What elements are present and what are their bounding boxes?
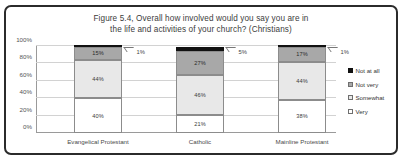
chart-title-line-1: Figure 5.4, Overall how involved would y… bbox=[46, 13, 356, 24]
callout-not-at-all: 1% bbox=[329, 47, 349, 55]
x-axis-label: Catholic bbox=[145, 138, 255, 145]
bar-value-label: 46% bbox=[194, 92, 206, 98]
legend-item-not-at-all[interactable]: Not at all bbox=[348, 67, 404, 74]
y-axis-line bbox=[36, 46, 37, 133]
bar-segment-very[interactable]: 21% bbox=[176, 115, 224, 133]
bar-segment-somewhat[interactable]: 46% bbox=[176, 75, 224, 115]
bar-value-label: 38% bbox=[296, 113, 308, 119]
bar-value-label: 27% bbox=[194, 60, 206, 66]
bar-value-label: 17% bbox=[296, 51, 308, 57]
legend-swatch-icon bbox=[348, 109, 353, 114]
bar-segment-not-at-all[interactable]: 1% bbox=[278, 45, 326, 47]
callout-leader-line bbox=[123, 47, 136, 52]
bar-segment-not-at-all[interactable]: 5% bbox=[176, 47, 224, 51]
chart-legend: Not at allNot verySomewhatVery bbox=[348, 67, 404, 121]
bar-segment-not-at-all[interactable]: 1% bbox=[74, 45, 122, 47]
legend-swatch-icon bbox=[348, 82, 353, 87]
callout-not-at-all: 5% bbox=[227, 47, 247, 55]
callout-leader-line bbox=[327, 47, 340, 52]
callout-leader-line bbox=[225, 47, 238, 52]
legend-swatch-icon bbox=[348, 95, 353, 100]
legend-item-label: Not very bbox=[356, 81, 379, 88]
callout-value-label: 1% bbox=[137, 49, 145, 55]
bar-value-label: 40% bbox=[92, 113, 104, 119]
y-tick-label-60: 60% bbox=[6, 71, 32, 78]
legend-item-label: Very bbox=[356, 108, 368, 115]
bar-segment-not-very[interactable]: 27% bbox=[176, 51, 224, 74]
bar-column[interactable]: 40%44%15%1% bbox=[74, 46, 122, 133]
y-tick-label-0: 0% bbox=[6, 123, 32, 130]
chart-title-line-2: the life and activities of your church? … bbox=[46, 24, 356, 35]
callout-value-label: 5% bbox=[239, 49, 247, 55]
bar-value-label: 15% bbox=[92, 50, 104, 56]
bar-segment-not-very[interactable]: 15% bbox=[74, 47, 122, 60]
legend-item-label: Somewhat bbox=[356, 94, 385, 101]
legend-item-very[interactable]: Very bbox=[348, 108, 404, 115]
legend-item-somewhat[interactable]: Somewhat bbox=[348, 94, 404, 101]
bar-value-label: 44% bbox=[296, 78, 308, 84]
callout-not-at-all: 1% bbox=[125, 47, 145, 55]
plot-area: 0%20%40%60%80%100% 40%44%15%1%1%21%46%27… bbox=[36, 46, 336, 133]
legend-item-not-very[interactable]: Not very bbox=[348, 81, 404, 88]
legend-item-label: Not at all bbox=[356, 67, 380, 74]
y-tick-label-80: 80% bbox=[6, 53, 32, 60]
x-axis-label: Evangelical Protestant bbox=[43, 138, 153, 145]
x-axis-label: Mainline Protestant bbox=[247, 138, 357, 145]
y-tick-label-40: 40% bbox=[6, 88, 32, 95]
bar-value-label: 44% bbox=[92, 76, 104, 82]
bar-segment-somewhat[interactable]: 44% bbox=[74, 60, 122, 98]
legend-swatch-icon bbox=[348, 68, 353, 73]
y-tick-label-100: 100% bbox=[6, 36, 32, 43]
bar-column[interactable]: 21%46%27%5% bbox=[176, 46, 224, 133]
callout-value-label: 1% bbox=[341, 49, 349, 55]
bar-segment-not-very[interactable]: 17% bbox=[278, 47, 326, 62]
chart-frame: Figure 5.4, Overall how involved would y… bbox=[4, 5, 398, 155]
bar-segment-very[interactable]: 40% bbox=[74, 98, 122, 133]
chart-title: Figure 5.4, Overall how involved would y… bbox=[46, 13, 356, 35]
bar-segment-somewhat[interactable]: 44% bbox=[278, 62, 326, 100]
bar-column[interactable]: 38%44%17%1% bbox=[278, 46, 326, 133]
y-tick-label-20: 20% bbox=[6, 105, 32, 112]
bar-segment-very[interactable]: 38% bbox=[278, 100, 326, 133]
bar-value-label: 21% bbox=[194, 121, 206, 127]
